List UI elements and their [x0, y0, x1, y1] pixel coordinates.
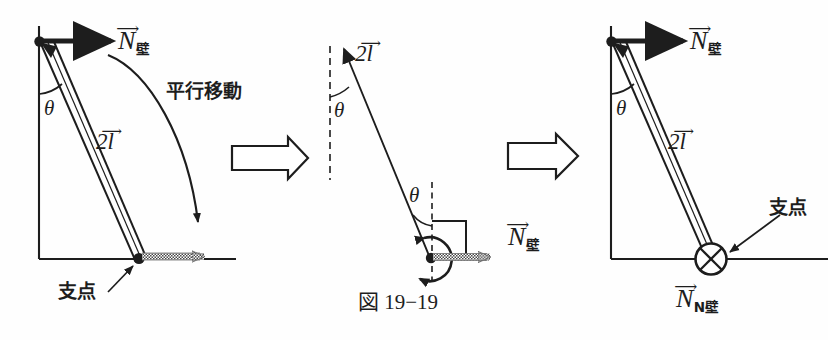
rod-vector-middle [344, 49, 430, 258]
parallel-translation-label: 平行移動 [166, 82, 242, 101]
transition-arrow-2 [508, 134, 578, 178]
panel-left-graphics [34, 26, 236, 292]
vector-accent-icon: ⟶ [688, 21, 711, 37]
vector-accent-icon: ⟶ [360, 36, 380, 50]
rod-length-label-middle: 2⟶l [355, 40, 373, 65]
wall-normal-label-left: ⟶N壁 [118, 26, 150, 56]
angle-label-middle-top: θ [334, 100, 344, 121]
fulcrum-leader-left [108, 266, 133, 292]
angle-label-right: θ [616, 98, 626, 119]
rod-left [41, 40, 146, 263]
angle-label-middle-bottom: θ [409, 185, 419, 206]
rod-right [613, 40, 718, 263]
panel-middle-graphics [330, 46, 490, 282]
vector-accent-icon: ⟶ [506, 217, 529, 233]
wall-normal-label-right: ⟶N壁 [690, 26, 722, 56]
figure-caption: 図 19−19 [358, 292, 438, 313]
angle-label-left: θ [44, 98, 54, 119]
fulcrum-label-left: 支点 [58, 282, 96, 301]
into-page-symbol-right [696, 244, 727, 275]
wall-normal-label-middle: ⟶N壁 [508, 222, 540, 252]
fulcrum-label-right: 支点 [769, 198, 807, 217]
vector-accent-icon: ⟶ [101, 124, 121, 138]
vector-accent-icon: ⟶ [116, 21, 139, 37]
moment-label-right: ⟶NN壁 [676, 284, 719, 314]
vector-accent-icon: ⟶ [674, 279, 697, 295]
physics-figure: ⟶N壁 θ 2⟶l 平行移動 支点 2⟶l θ θ ⟶N壁 図 19−19 ⟶N… [0, 0, 828, 340]
vector-accent-icon: ⟶ [673, 124, 693, 138]
rod-length-label-right: 2⟶l [668, 128, 686, 153]
panel-right-graphics [606, 26, 828, 275]
fulcrum-leader-right [730, 215, 780, 252]
transition-arrow-1 [232, 137, 308, 179]
rod-length-label-left: 2⟶l [96, 128, 114, 153]
theta-arc-middle-top [330, 87, 349, 97]
